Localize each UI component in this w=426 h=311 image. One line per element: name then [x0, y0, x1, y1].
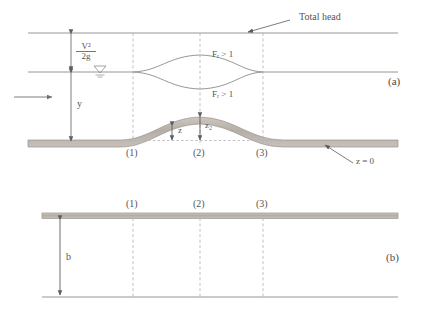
total-head-label: Total head	[299, 12, 341, 22]
section-label-2-panel-b: (2)	[193, 199, 205, 209]
section-label-1-panel-b: (1)	[126, 199, 138, 209]
section-label-1-panel-a: (1)	[126, 148, 138, 158]
free-surface-symbol	[94, 66, 106, 77]
channel-bed-hump	[28, 117, 398, 147]
lower-surface-curve	[133, 72, 263, 89]
figure-container: Total head V² 2g y Fᵣ > 1 Fᵣ > 1 z z₂ z …	[0, 0, 426, 311]
froude-upper-label: Fᵣ > 1	[212, 50, 233, 59]
channel-width-label: b	[66, 252, 71, 262]
panel-tag-a: (a)	[388, 76, 400, 87]
datum-leader	[325, 145, 353, 163]
panel-tag-b: (b)	[386, 252, 399, 263]
hump-height-upstream-label: z	[178, 126, 182, 135]
upper-surface-curve	[133, 55, 263, 72]
section-label-3-panel-a: (3)	[256, 148, 268, 158]
section-label-3-panel-b: (3)	[256, 199, 268, 209]
velocity-head-denominator: 2g	[76, 52, 96, 61]
datum-label: z = 0	[356, 157, 374, 166]
plan-top-wall	[42, 213, 398, 219]
hump-height-crest-label: z₂	[205, 121, 212, 130]
depth-label: y	[77, 99, 82, 109]
velocity-head-label: V² 2g	[76, 42, 96, 62]
section-label-2-panel-a: (2)	[193, 148, 205, 158]
total-head-leader	[248, 20, 290, 32]
froude-lower-label: Fᵣ > 1	[212, 90, 233, 99]
